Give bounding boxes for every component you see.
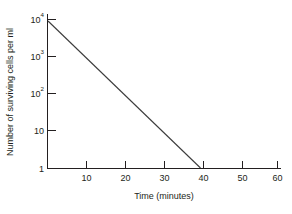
x-axis-title: Time (minutes) — [134, 191, 194, 201]
survival-curve-chart: 104 103 102 10 1 10 20 30 40 50 60 Time … — [0, 0, 292, 214]
x-tick-label-50: 50 — [237, 173, 247, 183]
y-axis-title: Number of surviving cells per ml — [5, 28, 15, 156]
y-tick-label-100: 102 — [31, 84, 45, 99]
y-tick-label-1000: 103 — [31, 47, 45, 62]
y-tick-labels: 104 103 102 10 1 — [31, 10, 45, 174]
x-tick-label-40: 40 — [198, 173, 208, 183]
data-series-group — [48, 21, 201, 168]
y-tick-label-10000: 104 — [31, 10, 45, 25]
survival-line — [48, 21, 201, 168]
x-tick-labels: 10 20 30 40 50 60 — [81, 173, 282, 183]
chart-figure: 104 103 102 10 1 10 20 30 40 50 60 Time … — [0, 0, 292, 214]
y-tick-label-1: 1 — [39, 164, 44, 174]
axes-group — [48, 14, 282, 169]
y-tick-marks — [48, 20, 56, 131]
x-tick-label-20: 20 — [120, 173, 130, 183]
x-tick-marks — [87, 161, 278, 169]
x-tick-label-30: 30 — [159, 173, 169, 183]
x-tick-label-60: 60 — [272, 173, 282, 183]
x-tick-label-10: 10 — [81, 173, 91, 183]
y-tick-label-10: 10 — [34, 126, 44, 136]
